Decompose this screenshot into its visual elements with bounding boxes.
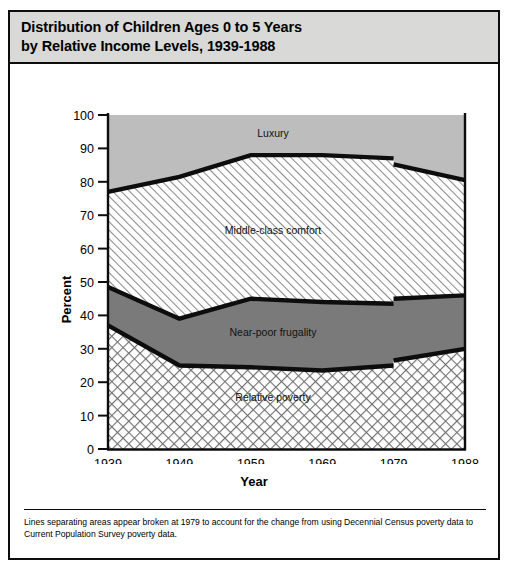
x-tick-label: 1939: [94, 457, 122, 464]
y-tick-label: 40: [80, 309, 94, 323]
footnote-divider: [24, 509, 486, 510]
x-tick-label: 1969: [308, 457, 336, 464]
page-title: Distribution of Children Ages 0 to 5 Yea…: [21, 18, 481, 56]
x-tick-label: 1979: [380, 457, 408, 464]
y-tick-label: 30: [80, 343, 94, 357]
figure-page: Distribution of Children Ages 0 to 5 Yea…: [0, 0, 510, 570]
x-axis-tick-labels: 1939 1949 1959 1969 1979 1988: [94, 457, 479, 464]
title-band: Distribution of Children Ages 0 to 5 Yea…: [10, 12, 498, 64]
x-axis-title: Year: [10, 474, 498, 489]
series-label-relative-poverty: Relative poverty: [235, 391, 311, 403]
y-tick-label: 100: [73, 109, 94, 123]
series-label-luxury: Luxury: [257, 127, 289, 139]
y-tick-label: 60: [80, 243, 94, 257]
figure-frame: Distribution of Children Ages 0 to 5 Yea…: [8, 10, 500, 560]
series-label-middle-class-comfort: Middle-class comfort: [225, 224, 321, 236]
y-tick-label: 20: [80, 376, 94, 390]
x-tick-label: 1949: [165, 457, 193, 464]
footnote-text: Lines separating areas appear broken at …: [24, 516, 488, 540]
y-tick-label: 70: [80, 209, 94, 223]
y-tick-label: 80: [80, 176, 94, 190]
y-axis-ticks: [98, 115, 108, 449]
y-axis-tick-labels: 100 90 80 70 60 50 40 30 20 10 0: [73, 109, 94, 457]
y-axis-title: Percent: [59, 240, 74, 360]
y-tick-label: 50: [80, 276, 94, 290]
x-tick-label: 1959: [237, 457, 265, 464]
x-tick-label: 1988: [451, 457, 479, 464]
chart-plot-area: 100 90 80 70 60 50 40 30 20 10 0 1939 19…: [10, 64, 498, 507]
y-tick-label: 90: [80, 142, 94, 156]
y-tick-label: 0: [87, 443, 94, 457]
area-chart-svg: 100 90 80 70 60 50 40 30 20 10 0 1939 19…: [10, 64, 498, 464]
series-label-near-poor-frugality: Near-poor frugality: [230, 326, 318, 338]
y-tick-label: 10: [80, 410, 94, 424]
